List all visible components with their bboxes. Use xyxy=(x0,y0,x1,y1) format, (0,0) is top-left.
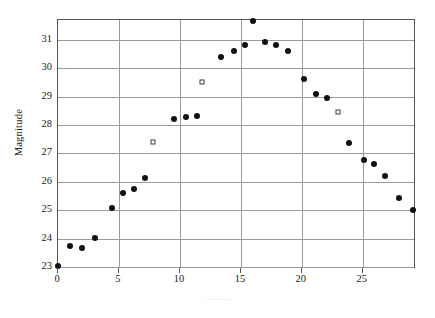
x-tick-label: 15 xyxy=(235,274,246,285)
data-point-filled-circle xyxy=(109,205,115,211)
y-tick-label: 29 xyxy=(42,90,53,101)
data-point-filled-circle xyxy=(171,116,177,122)
data-point-filled-circle xyxy=(396,195,402,201)
data-point-filled-circle xyxy=(194,113,200,119)
data-point-filled-circle xyxy=(120,190,126,196)
gridline-vertical xyxy=(302,20,303,267)
gridline-horizontal xyxy=(58,68,414,69)
gridline-horizontal xyxy=(58,239,414,240)
data-point-filled-circle xyxy=(67,243,73,249)
gridline-vertical xyxy=(180,20,181,267)
gridline-horizontal xyxy=(58,40,414,41)
data-point-filled-circle xyxy=(131,186,137,192)
y-axis-tick-labels: 232425262728293031 xyxy=(26,19,52,268)
x-tick-label: 20 xyxy=(296,274,307,285)
data-point-filled-circle xyxy=(371,161,377,167)
y-tick-label: 25 xyxy=(42,204,53,215)
data-point-filled-circle xyxy=(382,173,388,179)
data-point-filled-circle xyxy=(55,263,61,269)
gridline-vertical xyxy=(241,20,242,267)
data-point-filled-circle xyxy=(79,245,85,251)
data-point-filled-circle xyxy=(285,48,291,54)
data-point-filled-circle xyxy=(231,48,237,54)
data-point-filled-circle xyxy=(346,140,352,146)
gridline-horizontal xyxy=(58,182,414,183)
y-axis-title: Magnitude xyxy=(13,62,24,109)
x-tick-label: 5 xyxy=(115,274,120,285)
y-axis-title-text: Magnitude xyxy=(13,109,24,156)
data-point-filled-circle xyxy=(92,235,98,241)
gridline-horizontal xyxy=(58,153,414,154)
data-point-filled-circle xyxy=(242,42,248,48)
data-point-open-square xyxy=(336,110,341,115)
y-tick-label: 31 xyxy=(42,34,53,45)
plot-area xyxy=(57,19,415,268)
data-point-filled-circle xyxy=(361,157,367,163)
data-point-filled-circle xyxy=(183,114,189,120)
x-axis-tick-labels: 0510152025 xyxy=(57,274,415,288)
scatter-chart-figure: Magnitude 232425262728293031 0510152025 … xyxy=(0,0,435,318)
gridline-horizontal xyxy=(58,97,414,98)
gridline-vertical xyxy=(119,20,120,267)
gridline-vertical xyxy=(363,20,364,267)
y-tick-label: 24 xyxy=(42,232,53,243)
data-point-filled-circle xyxy=(313,91,319,97)
data-point-filled-circle xyxy=(250,18,256,24)
y-tick-label: 28 xyxy=(42,119,53,130)
y-tick-label: 30 xyxy=(42,62,53,73)
data-point-filled-circle xyxy=(273,42,279,48)
data-point-filled-circle xyxy=(410,207,416,213)
data-point-filled-circle xyxy=(324,95,330,101)
y-tick-label: 27 xyxy=(42,147,53,158)
x-tick-label: 10 xyxy=(174,274,185,285)
x-axis-title: ········· xyxy=(0,296,435,304)
y-tick-label: 23 xyxy=(42,261,53,272)
x-tick-label: 25 xyxy=(357,274,368,285)
gridline-horizontal xyxy=(58,125,414,126)
data-point-open-square xyxy=(151,139,156,144)
gridline-horizontal xyxy=(58,267,414,268)
data-point-filled-circle xyxy=(218,54,224,60)
data-point-filled-circle xyxy=(142,175,148,181)
y-tick-label: 26 xyxy=(42,176,53,187)
data-point-open-square xyxy=(199,80,204,85)
x-tick-label: 0 xyxy=(54,274,59,285)
data-point-filled-circle xyxy=(262,39,268,45)
data-point-filled-circle xyxy=(301,76,307,82)
